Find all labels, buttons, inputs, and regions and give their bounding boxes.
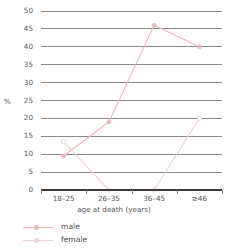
data-point-female bbox=[62, 140, 66, 144]
x-tick-label: ≥46 bbox=[192, 195, 207, 203]
y-tick-label: 15 bbox=[0, 132, 33, 139]
legend-dot bbox=[34, 225, 39, 230]
data-point-male bbox=[107, 120, 111, 124]
data-point-male bbox=[197, 45, 201, 49]
x-tick-label: 36–45 bbox=[143, 195, 165, 203]
x-tick-label: 18–25 bbox=[53, 195, 75, 203]
y-tick-label: 20 bbox=[0, 114, 33, 121]
y-tick-label: 30 bbox=[0, 79, 33, 86]
chart-legend: malefemale bbox=[0, 221, 228, 247]
plot-area bbox=[41, 11, 222, 190]
y-tick-label: 5 bbox=[0, 168, 33, 175]
data-point-male bbox=[152, 23, 156, 27]
x-tick-mark bbox=[177, 190, 178, 194]
legend-dot bbox=[34, 238, 39, 243]
y-tick-label: 25 bbox=[0, 97, 33, 104]
y-tick-label: 0 bbox=[0, 186, 33, 193]
series-line-male bbox=[64, 25, 200, 156]
y-tick-label: 35 bbox=[0, 61, 33, 68]
y-tick-label: 40 bbox=[0, 43, 33, 50]
y-tick-label: 10 bbox=[0, 150, 33, 157]
legend-label: female bbox=[61, 235, 87, 244]
legend-item[interactable]: male bbox=[0, 221, 228, 234]
line-chart: % 05101520253035404550 18–2526–3536–45≥4… bbox=[0, 0, 228, 250]
data-point-male bbox=[62, 154, 66, 158]
series-male bbox=[62, 23, 202, 158]
data-point-female bbox=[197, 116, 201, 120]
series-layer bbox=[41, 11, 222, 190]
x-tick-mark bbox=[86, 190, 87, 194]
x-tick-mark bbox=[222, 190, 223, 194]
legend-label: male bbox=[61, 222, 80, 231]
x-axis-title: age at death (years) bbox=[0, 205, 228, 214]
y-tick-label: 45 bbox=[0, 25, 33, 32]
x-tick-label: 26–35 bbox=[98, 195, 120, 203]
legend-item[interactable]: female bbox=[0, 234, 228, 247]
legend-marker-icon bbox=[23, 238, 53, 243]
y-tick-label: 50 bbox=[0, 7, 33, 14]
series-line-female bbox=[64, 118, 200, 190]
x-tick-mark bbox=[41, 190, 42, 194]
legend-marker-icon bbox=[23, 225, 53, 230]
series-female bbox=[62, 116, 202, 192]
x-tick-mark bbox=[132, 190, 133, 194]
y-axis-ticks: 05101520253035404550 bbox=[0, 11, 41, 190]
